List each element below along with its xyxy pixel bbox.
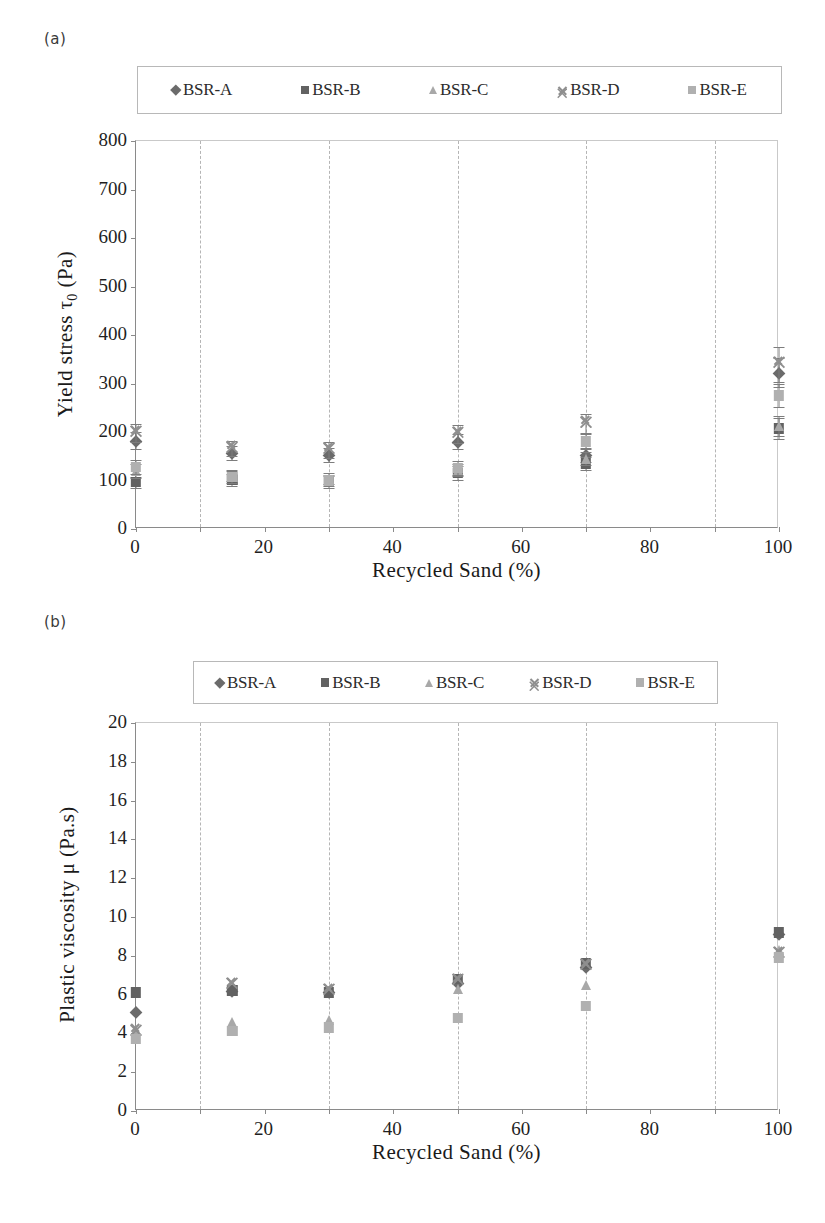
x-axis-tick — [650, 1109, 651, 1114]
y-axis-tick-label: 20 — [108, 711, 127, 733]
y-axis-tick-label: 10 — [108, 905, 127, 927]
data-point-bsr-b — [774, 924, 784, 942]
gridline-vertical — [715, 723, 716, 1109]
x-axis-tick-label: 100 — [764, 1118, 793, 1140]
y-axis-tick-label: 12 — [108, 866, 127, 888]
gridline-vertical — [200, 723, 201, 1109]
x-axis-tick-label: 100 — [764, 536, 793, 558]
y-axis-tick-label: 18 — [108, 750, 127, 772]
x-axis-tick-label: 40 — [383, 536, 402, 558]
y-axis-tick — [131, 723, 136, 724]
data-point-bsr-d — [451, 972, 464, 990]
data-point-bsr-e — [774, 949, 784, 967]
y-axis-tick-label: 2 — [118, 1060, 128, 1082]
x-axis-tick-label: 20 — [254, 1118, 273, 1140]
x-axis-tick — [522, 1109, 523, 1114]
x-axis-tick — [715, 1109, 716, 1114]
data-point-bsr-d — [580, 957, 593, 975]
marker-diamond-icon — [130, 1006, 143, 1019]
x-axis-tick — [136, 1109, 137, 1114]
x-axis-tick-label: 40 — [383, 1118, 402, 1140]
x-axis-tick — [265, 1109, 266, 1114]
marker-square-icon — [324, 1022, 334, 1032]
x-axis-tick-label: 60 — [511, 536, 530, 558]
data-point-bsr-d — [226, 976, 239, 994]
y-axis-tick-label: 200 — [99, 420, 128, 442]
y-axis-tick-label: 14 — [108, 827, 127, 849]
y-axis-tick-label: 16 — [108, 789, 127, 811]
x-axis-tick — [200, 1109, 201, 1114]
x-axis-tick — [458, 1109, 459, 1114]
marker-square-icon — [227, 1026, 237, 1036]
y-axis-tick — [131, 839, 136, 840]
data-point-bsr-b — [131, 984, 141, 1002]
x-axis-tick — [329, 1109, 330, 1114]
marker-cross-icon — [451, 972, 464, 985]
x-axis-tick-label: 20 — [254, 536, 273, 558]
x-axis-tick — [393, 1109, 394, 1114]
y-axis-tick-label: 4 — [118, 1021, 128, 1043]
marker-square-icon — [131, 1034, 141, 1044]
marker-square-icon — [581, 1001, 591, 1011]
data-point-bsr-e — [131, 1030, 141, 1048]
x-axis-tick-label: 0 — [130, 536, 140, 558]
marker-triangle-icon — [581, 980, 591, 990]
marker-square-icon — [774, 927, 784, 937]
x-axis-tick — [586, 1109, 587, 1114]
marker-cross-icon — [323, 982, 336, 995]
data-point-bsr-e — [227, 1022, 237, 1040]
y-axis-tick — [131, 801, 136, 802]
y-axis-tick-label: 600 — [99, 226, 128, 248]
y-axis-tick-label: 100 — [99, 469, 128, 491]
page-bottom-text-fragment — [0, 1213, 430, 1223]
y-axis-title-b: Plastic viscosity μ (Pa.s) — [55, 795, 80, 1035]
y-axis-tick-label: 300 — [99, 372, 128, 394]
x-axis-tick — [779, 1109, 780, 1114]
marker-square-icon — [131, 987, 141, 997]
marker-square-icon — [452, 1013, 462, 1023]
y-axis-tick-label: 500 — [99, 275, 128, 297]
data-point-bsr-a — [131, 1003, 140, 1021]
data-point-bsr-e — [581, 997, 591, 1015]
data-point-bsr-c — [581, 976, 591, 994]
data-point-bsr-e — [324, 1019, 334, 1037]
y-axis-tick-label: 400 — [99, 323, 128, 345]
gridline-vertical — [329, 723, 330, 1109]
data-point-bsr-e — [452, 1009, 462, 1027]
y-axis-tick — [131, 762, 136, 763]
x-axis-title-b: Recycled Sand (%) — [135, 1140, 778, 1165]
y-axis-tick — [131, 917, 136, 918]
y-axis-tick-label: 700 — [99, 178, 128, 200]
gridline-vertical — [458, 723, 459, 1109]
y-axis-tick-label: 8 — [118, 944, 128, 966]
marker-square-icon — [774, 952, 784, 962]
marker-cross-icon — [580, 957, 593, 970]
y-axis-tick-label: 0 — [118, 517, 128, 539]
x-axis-tick-label: 80 — [640, 536, 659, 558]
y-axis-tick — [131, 878, 136, 879]
y-axis-tick-label: 800 — [99, 129, 128, 151]
y-axis-tick-label: 6 — [118, 983, 128, 1005]
x-axis-tick-label: 60 — [511, 1118, 530, 1140]
marker-cross-icon — [226, 976, 239, 989]
y-axis-tick-label: 0 — [118, 1099, 128, 1121]
x-axis-tick-label: 80 — [640, 1118, 659, 1140]
y-axis-tick — [131, 1072, 136, 1073]
x-axis-tick-label: 0 — [130, 1118, 140, 1140]
plot-area-b — [135, 722, 778, 1110]
y-axis-tick — [131, 956, 136, 957]
gridline-vertical — [586, 723, 587, 1109]
data-point-bsr-d — [323, 982, 336, 1000]
